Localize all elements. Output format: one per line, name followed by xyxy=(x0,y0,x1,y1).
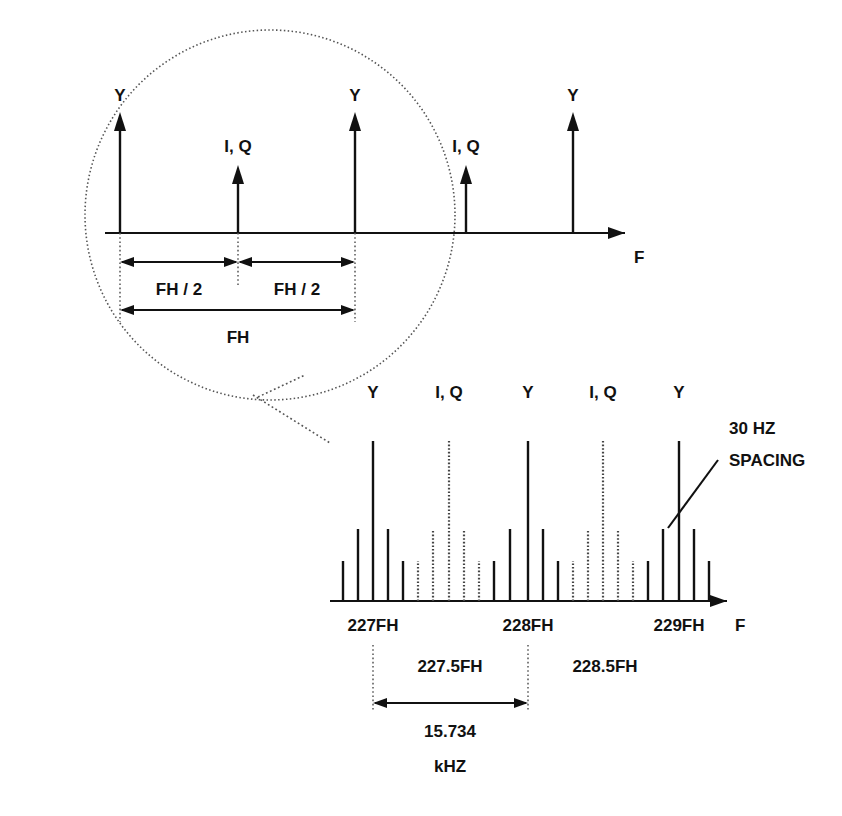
detail-spike-group: Y I, Q Y I, Q Y xyxy=(114,86,579,233)
spacing-annotation-line1: 30 HZ xyxy=(729,419,775,438)
spectrum-measurement: 15.734 kHZ xyxy=(373,698,528,776)
detail-spike-arrowhead xyxy=(232,165,244,184)
detail-dim-label-fh: FH xyxy=(227,328,250,347)
spectrum-peak-label-iq-1: I, Q xyxy=(435,383,462,402)
detail-spike-label-y-2: Y xyxy=(349,86,361,105)
magnifier-circle xyxy=(85,30,455,400)
spacing-annotation-line2: SPACING xyxy=(729,451,805,470)
detail-dim-label-fh-half-left: FH / 2 xyxy=(156,280,202,299)
detail-spike-label-y-1: Y xyxy=(114,86,126,105)
spacing-annotation: 30 HZ SPACING xyxy=(668,419,805,528)
detail-spike-arrowhead xyxy=(349,112,361,131)
spectrum-axis-arrowhead xyxy=(710,595,727,607)
figure-canvas: F Y I, Q Y I, Q Y xyxy=(0,0,842,816)
detail-dim-label-fh-half-right: FH / 2 xyxy=(274,280,320,299)
detail-spike-arrowhead xyxy=(114,112,126,131)
detail-dim-fh-half-left: FH / 2 xyxy=(120,257,238,299)
detail-dim-fh-half-right: FH / 2 xyxy=(238,257,355,299)
detail-axis-arrowhead xyxy=(608,227,625,239)
spectrum-band-label-2275fh: 227.5FH xyxy=(417,657,482,676)
callout-leader-upper xyxy=(258,375,305,397)
spectrum-measurement-unit: kHZ xyxy=(434,757,466,776)
spectrum-axis-label: F xyxy=(735,616,745,635)
detail-spike-arrowhead xyxy=(460,165,472,184)
spectrum-tick-label-228fh: 228FH xyxy=(502,616,553,635)
spectrum-peak-label-y-2: Y xyxy=(522,383,534,402)
detail-dim-fh: FH xyxy=(120,305,355,347)
spectrum-chart: F Y I, Q Y I, Q Y 227FH 228FH 229FH 227.… xyxy=(330,383,805,776)
spectrum-bar-group xyxy=(343,441,709,601)
detail-spike-arrowhead xyxy=(567,112,579,131)
detail-spike-label-y-3: Y xyxy=(567,86,579,105)
spectrum-tick-label-227fh: 227FH xyxy=(347,616,398,635)
spectrum-peak-label-iq-2: I, Q xyxy=(589,383,616,402)
spectrum-peak-label-y-1: Y xyxy=(367,383,379,402)
spectrum-measurement-value: 15.734 xyxy=(424,722,477,741)
callout-leader-lower xyxy=(253,395,330,443)
spectrum-tick-label-229fh: 229FH xyxy=(653,616,704,635)
detail-axis-label: F xyxy=(634,248,644,267)
spectrum-band-label-2285fh: 228.5FH xyxy=(572,657,637,676)
detail-chart: F Y I, Q Y I, Q Y xyxy=(105,86,644,347)
spectrum-peak-label-y-3: Y xyxy=(673,383,685,402)
detail-spike-label-iq-2: I, Q xyxy=(452,137,479,156)
detail-spike-label-iq-1: I, Q xyxy=(224,137,251,156)
